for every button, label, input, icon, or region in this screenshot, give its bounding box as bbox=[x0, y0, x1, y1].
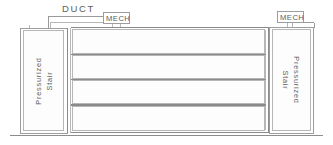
left-mech-label: MECH bbox=[106, 14, 130, 23]
floor-slab-2 bbox=[73, 56, 265, 79]
left-pressurized-stair-group bbox=[20, 25, 67, 134]
right-stair-label-line2: Stair bbox=[281, 71, 290, 90]
section-drawing-canvas: DUCT MECH MECH Pressurized Stair Pressur… bbox=[0, 0, 333, 145]
left-stair-label-line2: Stair bbox=[45, 72, 54, 91]
floor-slab-4 bbox=[73, 107, 265, 131]
left-stair-label-line1: Pressurized bbox=[34, 57, 43, 104]
duct-label: DUCT bbox=[62, 3, 95, 14]
right-stair-label-line1: Pressurized bbox=[292, 56, 301, 103]
floor-slab-1 bbox=[73, 30, 265, 54]
central-floors-group bbox=[68, 28, 269, 134]
right-mech-label: MECH bbox=[280, 13, 304, 22]
floor-slab-3 bbox=[73, 81, 265, 104]
right-pressurized-stair-group bbox=[269, 27, 313, 133]
right-stair-inner-wall bbox=[272, 30, 310, 131]
section-drawing: DUCT MECH MECH Pressurized Stair Pressur… bbox=[0, 0, 333, 145]
left-stair-inner-wall bbox=[24, 31, 64, 131]
